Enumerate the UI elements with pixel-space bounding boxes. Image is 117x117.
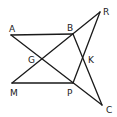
point-labels: A B R M P C G K (9, 7, 112, 115)
label-b: B (67, 23, 73, 33)
segment-ab (11, 34, 73, 35)
label-c: C (106, 105, 112, 115)
label-m: M (10, 88, 18, 98)
geometry-diagram: A B R M P C G K (0, 0, 117, 117)
label-r: R (103, 7, 109, 17)
label-p: P (67, 88, 73, 98)
label-k: K (88, 55, 95, 65)
label-a: A (9, 24, 16, 34)
label-g: G (28, 55, 35, 65)
